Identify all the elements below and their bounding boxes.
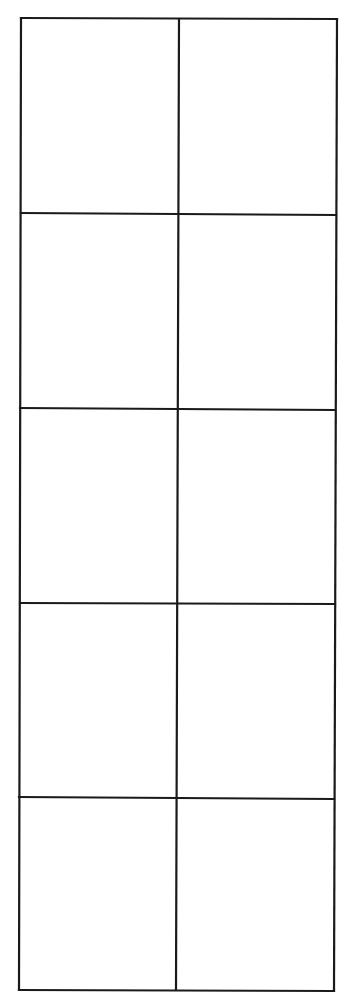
row-divider-3 xyxy=(20,603,335,604)
border-right xyxy=(334,19,337,991)
row-divider-4 xyxy=(19,797,334,799)
column-divider xyxy=(176,19,179,990)
row-divider-2 xyxy=(20,408,335,410)
grid-lines xyxy=(0,0,349,997)
border-left xyxy=(19,18,21,990)
row-divider-1 xyxy=(21,213,336,215)
